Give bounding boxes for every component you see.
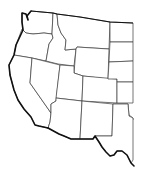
state-north-dakota bbox=[110, 22, 133, 42]
state-colorado bbox=[82, 76, 117, 103]
state-kansas bbox=[117, 82, 133, 103]
state-new-mexico bbox=[80, 101, 113, 139]
state-nebraska bbox=[108, 61, 133, 82]
western-us-outline-map bbox=[0, 0, 141, 173]
state-wyoming bbox=[74, 47, 109, 79]
state-south-dakota bbox=[109, 42, 133, 62]
state-arizona bbox=[48, 98, 82, 139]
